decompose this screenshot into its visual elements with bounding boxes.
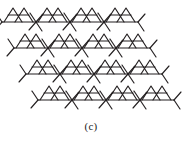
- tessellation-cell: [75, 34, 123, 57]
- motif-stroke-7: [150, 48, 156, 57]
- motif-stroke-7: [140, 100, 146, 109]
- motif-stroke-7: [60, 74, 66, 83]
- tessellation-cell: [97, 8, 145, 31]
- tessellation-diagram: [0, 0, 182, 124]
- tessellation-cell: [19, 60, 67, 83]
- figure-container: (c): [0, 0, 182, 143]
- motif-stroke-6: [174, 92, 181, 100]
- motif-stroke-5: [100, 91, 106, 100]
- motif-stroke-7: [138, 22, 144, 31]
- motif-stroke-7: [82, 48, 88, 57]
- motif-stroke-5: [42, 39, 48, 48]
- tessellation-cell: [99, 86, 147, 109]
- tessellation-cell: [63, 8, 111, 31]
- motif-stroke-5: [0, 13, 2, 22]
- motif-stroke-7: [106, 100, 112, 109]
- motif-stroke-5: [88, 65, 94, 74]
- motif-stroke-4: [97, 22, 104, 30]
- motif-stroke-4: [29, 22, 36, 30]
- motif-stroke-7: [162, 74, 168, 83]
- tessellation-cell: [121, 60, 169, 83]
- tessellation-cell: [41, 34, 89, 57]
- motif-stroke-7: [128, 74, 134, 83]
- motif-stroke-4: [7, 48, 14, 56]
- motif-stroke-6: [138, 14, 145, 22]
- motif-stroke-6: [162, 66, 169, 74]
- tessellation-cell: [29, 8, 77, 31]
- motif-stroke-4: [121, 74, 128, 82]
- tessellation-motif-grid: [0, 8, 181, 109]
- motif-stroke-4: [109, 48, 116, 56]
- motif-stroke-5: [134, 91, 140, 100]
- motif-stroke-7: [48, 48, 54, 57]
- motif-stroke-4: [133, 100, 140, 108]
- motif-stroke-5: [30, 13, 36, 22]
- motif-stroke-4: [65, 100, 72, 108]
- motif-stroke-5: [66, 91, 72, 100]
- motif-stroke-5: [54, 65, 60, 74]
- motif-stroke-6: [150, 40, 157, 48]
- motif-stroke-5: [20, 65, 26, 74]
- motif-stroke-4: [0, 22, 2, 30]
- motif-stroke-5: [98, 13, 104, 22]
- motif-stroke-7: [70, 22, 76, 31]
- motif-stroke-4: [63, 22, 70, 30]
- tessellation-cell: [0, 8, 43, 31]
- tessellation-cell: [109, 34, 157, 57]
- tessellation-cell: [87, 60, 135, 83]
- motif-stroke-7: [36, 22, 42, 31]
- motif-stroke-4: [19, 74, 26, 82]
- motif-stroke-7: [94, 74, 100, 83]
- motif-stroke-7: [104, 22, 110, 31]
- motif-stroke-4: [53, 74, 60, 82]
- motif-stroke-5: [122, 65, 128, 74]
- tessellation-cell: [53, 60, 101, 83]
- motif-stroke-5: [64, 13, 70, 22]
- motif-stroke-5: [8, 39, 14, 48]
- motif-stroke-4: [87, 74, 94, 82]
- tessellation-cell: [133, 86, 181, 109]
- tessellation-cell: [7, 34, 55, 57]
- motif-stroke-5: [110, 39, 116, 48]
- motif-stroke-4: [99, 100, 106, 108]
- motif-stroke-7: [174, 100, 180, 109]
- motif-stroke-5: [76, 39, 82, 48]
- motif-stroke-4: [41, 48, 48, 56]
- tessellation-cell: [31, 86, 79, 109]
- motif-stroke-7: [72, 100, 78, 109]
- motif-stroke-5: [32, 91, 38, 100]
- motif-stroke-4: [31, 100, 38, 108]
- figure-caption: (c): [0, 120, 182, 132]
- motif-stroke-7: [116, 48, 122, 57]
- motif-stroke-4: [75, 48, 82, 56]
- tessellation-cell: [65, 86, 113, 109]
